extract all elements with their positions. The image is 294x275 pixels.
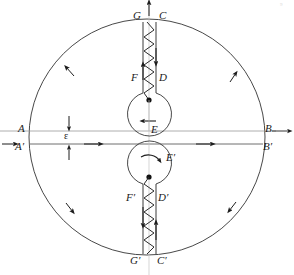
lower-small-circle-arrow-E-prime bbox=[141, 155, 160, 161]
big-circle-arrow-lower-left bbox=[66, 203, 73, 212]
label-D: D bbox=[159, 72, 167, 83]
label-epsilon: ε bbox=[64, 131, 68, 141]
label-G: G bbox=[133, 10, 141, 21]
big-circle-arrow-upper-left bbox=[66, 67, 74, 76]
label-F-prime: F′ bbox=[126, 192, 135, 203]
label-A: A bbox=[18, 123, 25, 134]
big-circle-arrow-upper-right bbox=[230, 73, 236, 82]
page-corner-mark: 9 bbox=[280, 2, 283, 7]
label-D-prime: D′ bbox=[158, 192, 168, 203]
label-G-prime: G′ bbox=[130, 255, 140, 266]
label-B: B bbox=[265, 123, 272, 134]
label-E: E bbox=[151, 124, 158, 135]
contour-svg bbox=[0, 0, 294, 275]
label-F: F bbox=[131, 72, 138, 83]
label-E-prime: E′ bbox=[166, 152, 175, 163]
label-B-prime: B′ bbox=[263, 141, 272, 152]
label-A-prime: A′ bbox=[15, 141, 24, 152]
contour-diagram-figure: G C F D E A A′ B B′ ε E′ F′ D′ G′ C′ 9 bbox=[0, 0, 294, 275]
label-C: C bbox=[159, 10, 166, 21]
big-circle-arrow-lower-right bbox=[229, 202, 236, 211]
label-C-prime: C′ bbox=[157, 255, 167, 266]
